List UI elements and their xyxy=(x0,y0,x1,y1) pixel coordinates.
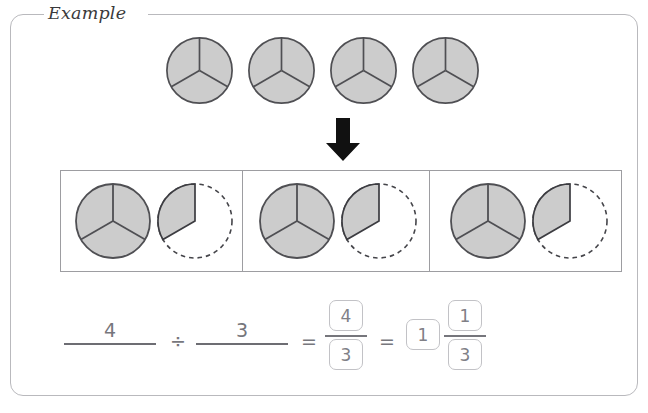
dividend-rule xyxy=(64,343,156,345)
grouping-table xyxy=(60,170,622,272)
whole-circles-row xyxy=(0,0,648,115)
improper-denominator-box[interactable]: 3 xyxy=(329,339,363,370)
mixed-numerator-box[interactable]: 1 xyxy=(448,300,482,331)
divisor-blank[interactable]: 3 xyxy=(196,320,288,345)
whole-circle-4 xyxy=(412,37,479,104)
group-cell-3 xyxy=(430,171,621,271)
mixed-denominator-value: 3 xyxy=(460,345,471,365)
dividend-value: 4 xyxy=(64,320,156,343)
improper-denominator-value: 3 xyxy=(341,345,352,365)
divisor-rule xyxy=(196,343,288,345)
group-cell-1 xyxy=(61,171,243,271)
improper-numerator-value: 4 xyxy=(341,306,352,326)
dividend-blank[interactable]: 4 xyxy=(64,320,156,345)
group-1-whole-circle xyxy=(75,183,151,259)
improper-fraction-bar xyxy=(325,335,367,337)
group-2-partial-circle xyxy=(341,183,417,259)
division-sign: ÷ xyxy=(170,332,186,351)
whole-circle-2 xyxy=(248,37,315,104)
group-1-partial-circle xyxy=(157,183,233,259)
whole-circle-1 xyxy=(166,37,233,104)
mixed-whole-value: 1 xyxy=(418,325,429,345)
mixed-whole-box[interactable]: 1 xyxy=(406,319,440,350)
division-equation: 4 ÷ 3 = 4 3 = 1 1 3 xyxy=(0,292,648,392)
improper-numerator-box[interactable]: 4 xyxy=(329,300,363,331)
mixed-fraction-bar xyxy=(444,335,486,337)
group-3-whole-circle xyxy=(450,183,526,259)
divisor-value: 3 xyxy=(196,320,288,343)
group-3-partial-circle xyxy=(532,183,608,259)
equals-sign-1: = xyxy=(301,332,317,351)
whole-circle-3 xyxy=(330,37,397,104)
mixed-denominator-box[interactable]: 3 xyxy=(448,339,482,370)
group-cell-2 xyxy=(243,171,429,271)
mixed-numerator-value: 1 xyxy=(460,306,471,326)
group-2-whole-circle xyxy=(259,183,335,259)
equals-sign-2: = xyxy=(379,332,395,351)
down-arrow-icon xyxy=(325,118,361,162)
